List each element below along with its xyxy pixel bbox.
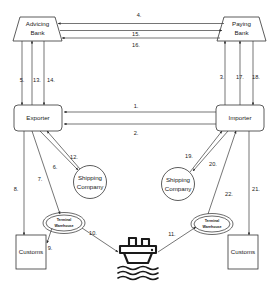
shipping-company-right-label-line2: Company (165, 185, 192, 192)
edge-label-5: 5. (20, 77, 25, 83)
trade-flow-diagram: Advicing Bank Paying Bank Exporter Impor… (0, 0, 278, 284)
edge-label-4: 4. (137, 12, 142, 18)
edge-label-16: 16. (132, 42, 140, 48)
advising-bank-label-line1: Advicing (26, 20, 50, 27)
shipping-company-left-label-line1: Shipping (78, 174, 103, 181)
node-shipping-company-right[interactable]: Shipping Company (162, 168, 195, 201)
edge-label-21: 21. (252, 186, 260, 192)
edge-label-19: 19. (185, 153, 193, 159)
paying-bank-label-line1: Paying (232, 20, 251, 27)
flow-11 (158, 227, 196, 252)
importer-label: Importer (228, 114, 251, 121)
terminal-warehouse-right-label-line2: Warehouse (202, 225, 221, 229)
customs-right-label: Customs (231, 248, 255, 255)
shipping-company-left-label-line2: Company (77, 183, 104, 190)
flow-7 (32, 131, 60, 214)
edge-label-22: 22. (225, 191, 233, 197)
edge-label-14: 14. (47, 77, 55, 83)
paying-bank-label-line2: Bank (234, 29, 249, 36)
edge-label-17: 17. (236, 74, 244, 80)
diagram-canvas: Advicing Bank Paying Bank Exporter Impor… (0, 0, 278, 284)
flow-19 (190, 131, 222, 172)
terminal-warehouse-left-label-line2: Warehouse (54, 224, 73, 228)
edge-label-1: 1. (134, 103, 139, 109)
node-paying-bank[interactable]: Paying Bank (217, 17, 266, 41)
exporter-label: Exporter (26, 114, 49, 121)
terminal-warehouse-right-label-line1: Terminal (205, 219, 220, 223)
node-exporter[interactable]: Exporter (14, 105, 62, 131)
edge-label-12: 12. (70, 154, 78, 160)
edge-label-13: 13. (33, 77, 41, 83)
edge-label-11: 11. (168, 231, 176, 237)
flow-10 (82, 228, 118, 252)
edge-label-18: 18. (252, 74, 260, 80)
node-importer[interactable]: Importer (216, 105, 264, 131)
node-advising-bank[interactable]: Advicing Bank (13, 17, 62, 41)
edge-label-7: 7. (38, 176, 43, 182)
customs-left-label: Customs (19, 248, 43, 255)
edge-label-9: 9. (48, 245, 53, 251)
flow-12 (47, 131, 80, 169)
node-terminal-warehouse-left[interactable]: Terminal Warehouse (43, 213, 85, 234)
shipping-company-right-label-line1: Shipping (166, 176, 191, 183)
ship-icon (118, 238, 158, 280)
edge-label-15: 15. (132, 31, 140, 37)
edge-label-3: 3. (220, 74, 225, 80)
node-shipping-company-left[interactable]: Shipping Company (74, 166, 107, 199)
edge-label-20: 20. (209, 161, 217, 167)
flow-6 (40, 131, 78, 170)
advising-bank-label-line2: Bank (30, 29, 45, 36)
node-customs-left[interactable]: Customs (16, 235, 46, 269)
edge-label-6: 6. (53, 164, 58, 170)
edge-label-8: 8. (14, 186, 19, 192)
edge-label-2: 2. (134, 130, 139, 136)
node-customs-right[interactable]: Customs (228, 235, 258, 269)
node-terminal-warehouse-right[interactable]: Terminal Warehouse (191, 214, 233, 235)
terminal-warehouse-left-label-line1: Terminal (57, 218, 72, 222)
edge-label-10: 10. (89, 230, 97, 236)
